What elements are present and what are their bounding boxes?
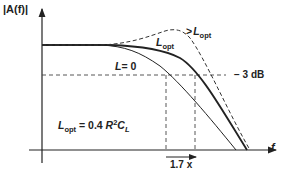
curve-l-zero: [42, 45, 236, 150]
curve-label-l-opt: Lopt: [156, 36, 175, 51]
y-axis-label: |A(f)|: [3, 3, 28, 15]
curve-label-l-zero: L= 0: [115, 60, 136, 72]
x-axis-label: f: [271, 141, 276, 153]
bandwidth-diagram: |A(f)| f − 3 dB 1.7 x L= 0 Lopt >Lopt Lo…: [0, 0, 289, 176]
minus-3db-label: − 3 dB: [234, 69, 264, 80]
curve-l-opt: [42, 45, 247, 150]
lopt-equation: Lopt = 0.4 R2CL: [58, 118, 130, 134]
bandwidth-ratio-label: 1.7 x: [170, 159, 193, 170]
